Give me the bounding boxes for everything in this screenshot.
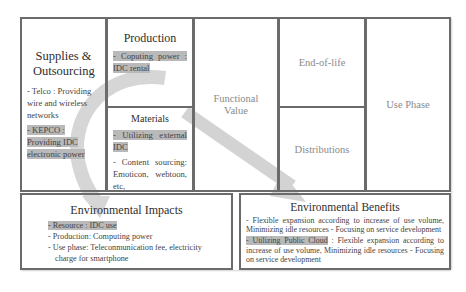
- environmental-impacts-box: Environmental Impacts - Resource : IDC u…: [20, 193, 233, 270]
- distributions-box: Distributions: [278, 106, 366, 192]
- end-of-life-title: End-of-life: [299, 57, 346, 68]
- distributions-title: Distributions: [295, 144, 350, 155]
- functional-value-box: Functional Value: [193, 17, 279, 192]
- benefits-item-2: - Utilizing Public Cloud : Flexible expa…: [246, 236, 444, 264]
- end-of-life-box: End-of-life: [278, 17, 366, 108]
- materials-box: Materials - Utilizing external IDC - Con…: [106, 106, 194, 192]
- materials-title: Materials: [113, 113, 187, 125]
- materials-item-content: - Content sourcing: Emoticon, webtoon, e…: [113, 156, 187, 192]
- benefits-item-1: - Flexible expansion according to increa…: [246, 216, 444, 234]
- environmental-benefits-box: Environmental Benefits - Flexible expans…: [239, 193, 451, 270]
- supplies-title: Supplies & Outsourcing: [27, 49, 100, 79]
- impacts-item-use-phase: - Use phase: Teleconmunication fee, elec…: [48, 242, 221, 264]
- production-box: Production - Coputing power : IDC rental: [106, 17, 194, 108]
- benefits-title: Environmental Benefits: [246, 201, 444, 214]
- impacts-item-resource: - Resource : IDC use: [48, 221, 117, 230]
- supplies-item-kepco: - KEPCO : Providing IDC electronic power: [27, 125, 85, 159]
- production-item-computing: - Coputing power : IDC rental: [113, 51, 187, 73]
- functional-value-title: Functional Value: [210, 93, 262, 117]
- production-item-wrap: - Coputing power : IDC rental: [113, 50, 187, 74]
- production-title: Production: [113, 31, 187, 45]
- use-phase-title: Use Phase: [386, 99, 429, 110]
- benefits-item-2-highlight: - Utilizing Public Cloud: [246, 236, 328, 245]
- supplies-outsourcing-box: Supplies & Outsourcing - Telco : Providi…: [20, 17, 107, 192]
- use-phase-box: Use Phase: [365, 17, 451, 192]
- impacts-item-production: - Production: Computing power: [48, 231, 221, 242]
- materials-item-idc-wrap: - Utilizing external IDC: [113, 129, 187, 153]
- supplies-item-telco: - Telco : Providing wire and wireless ne…: [27, 85, 100, 121]
- materials-item-idc: - Utilizing external IDC: [113, 130, 187, 152]
- supplies-item-kepco-wrap: - KEPCO : Providing IDC electronic power: [27, 124, 100, 160]
- impacts-title: Environmental Impacts: [32, 203, 221, 217]
- impacts-item-resource-wrap: - Resource : IDC use: [48, 220, 221, 231]
